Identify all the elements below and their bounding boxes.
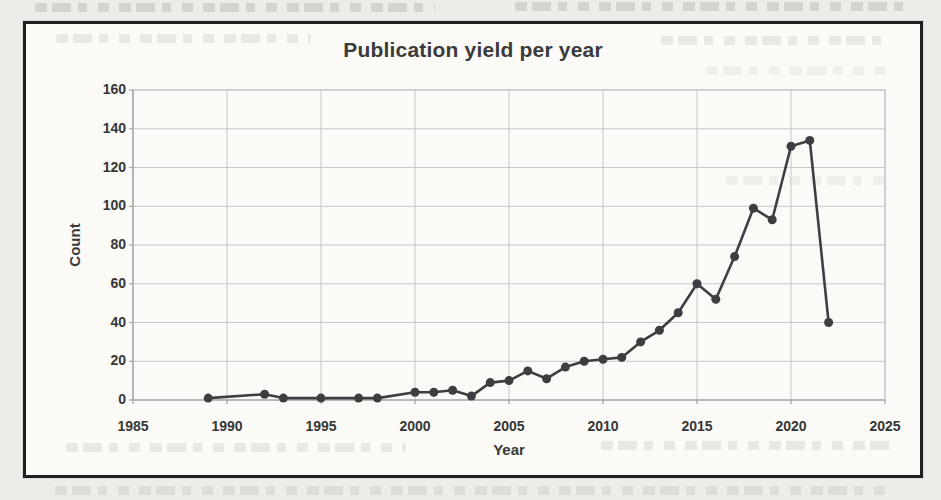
y-tick-label: 160 bbox=[26, 81, 126, 97]
data-point-marker bbox=[580, 357, 589, 366]
x-axis-title: Year bbox=[459, 441, 559, 458]
x-tick-label: 1990 bbox=[201, 418, 253, 434]
y-tick-label: 140 bbox=[26, 120, 126, 136]
data-point-marker bbox=[279, 394, 288, 403]
publication-yield-line-chart bbox=[26, 24, 920, 475]
data-point-marker bbox=[542, 374, 551, 383]
data-point-marker bbox=[636, 337, 645, 346]
data-line bbox=[208, 140, 828, 398]
y-tick-label: 120 bbox=[26, 159, 126, 175]
data-point-marker bbox=[768, 215, 777, 224]
data-point-marker bbox=[805, 136, 814, 145]
ghost-text-bottom bbox=[55, 486, 885, 495]
data-point-marker bbox=[561, 363, 570, 372]
y-tick-label: 40 bbox=[26, 314, 126, 330]
data-point-marker bbox=[373, 394, 382, 403]
x-tick-label: 1985 bbox=[107, 418, 159, 434]
data-point-marker bbox=[655, 326, 664, 335]
data-point-marker bbox=[824, 318, 833, 327]
data-point-marker bbox=[730, 252, 739, 261]
x-tick-label: 2010 bbox=[577, 418, 629, 434]
data-point-marker bbox=[674, 308, 683, 317]
data-point-marker bbox=[448, 386, 457, 395]
data-point-marker bbox=[411, 388, 420, 397]
data-point-marker bbox=[787, 142, 796, 151]
data-point-marker bbox=[204, 394, 213, 403]
data-point-marker bbox=[711, 295, 720, 304]
data-point-marker bbox=[505, 376, 514, 385]
figure-frame: Publication yield per year 0204060801001… bbox=[23, 21, 923, 478]
data-point-marker bbox=[749, 204, 758, 213]
x-tick-label: 1995 bbox=[295, 418, 347, 434]
data-point-marker bbox=[354, 394, 363, 403]
data-point-marker bbox=[523, 366, 532, 375]
y-tick-label: 20 bbox=[26, 352, 126, 368]
data-point-marker bbox=[260, 390, 269, 399]
x-tick-label: 2005 bbox=[483, 418, 535, 434]
data-point-marker bbox=[317, 394, 326, 403]
scanned-page: Publication yield per year 0204060801001… bbox=[0, 0, 941, 500]
data-point-marker bbox=[486, 378, 495, 387]
x-tick-label: 2000 bbox=[389, 418, 441, 434]
x-tick-label: 2020 bbox=[765, 418, 817, 434]
y-axis-title: Count bbox=[66, 209, 86, 281]
ghost-text-top-right bbox=[515, 2, 910, 11]
x-tick-label: 2025 bbox=[859, 418, 911, 434]
data-point-marker bbox=[429, 388, 438, 397]
data-point-marker bbox=[693, 279, 702, 288]
data-point-marker bbox=[467, 392, 476, 401]
data-point-marker bbox=[599, 355, 608, 364]
ghost-text-top-left bbox=[35, 3, 435, 12]
x-tick-label: 2015 bbox=[671, 418, 723, 434]
data-point-marker bbox=[617, 353, 626, 362]
y-tick-label: 0 bbox=[26, 391, 126, 407]
